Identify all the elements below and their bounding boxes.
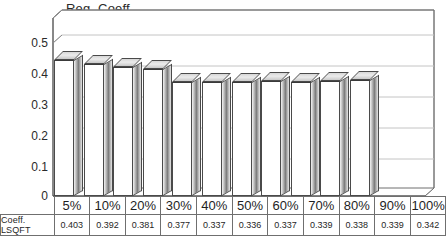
- bar-70%: [261, 81, 281, 196]
- bar-series: [53, 18, 382, 196]
- bar-20%: [113, 67, 133, 196]
- bar-side-face: [340, 76, 349, 196]
- bar-front-face: [232, 82, 252, 196]
- table-corner-cell: [1, 197, 55, 215]
- category-cell-30%: 30%: [161, 197, 197, 215]
- bar-front-face: [320, 81, 340, 196]
- bar-front-face: [113, 67, 133, 196]
- category-cell-20%: 20%: [125, 197, 161, 215]
- bar-front-face: [350, 80, 370, 196]
- category-cell-40%: 40%: [197, 197, 233, 215]
- bar-side-face: [192, 77, 201, 196]
- chart-caption: [0, 231, 435, 238]
- category-cell-60%: 60%: [268, 197, 304, 215]
- y-tick-0.2: 0.2: [14, 129, 48, 143]
- y-tick-0.5: 0.5: [14, 36, 48, 50]
- category-cell-70%: 70%: [303, 197, 339, 215]
- bar-front-face: [54, 60, 74, 196]
- table-row-categories: 5%10%20%30%40%50%60%70%80%90%100%: [1, 197, 446, 215]
- bar-side-face: [370, 75, 379, 196]
- plot-area: [53, 18, 382, 196]
- bar-80%: [291, 82, 311, 196]
- bar-side-face: [281, 76, 290, 196]
- category-cell-50%: 50%: [232, 197, 268, 215]
- bar-side-face: [133, 62, 142, 196]
- category-cell-5%: 5%: [54, 197, 90, 215]
- bar-50%: [202, 82, 222, 196]
- bar-side-face: [74, 55, 83, 196]
- category-cell-10%: 10%: [90, 197, 126, 215]
- y-tick-0.1: 0.1: [14, 160, 48, 174]
- bar-40%: [172, 82, 192, 196]
- bar-front-face: [291, 82, 311, 196]
- category-cell-80%: 80%: [339, 197, 375, 215]
- category-cell-100%: 100%: [410, 197, 446, 215]
- bar-side-face: [222, 77, 231, 196]
- bar-60%: [232, 82, 252, 196]
- bar-front-face: [261, 81, 281, 196]
- bar-side-face: [311, 77, 320, 196]
- bar-10%: [84, 64, 104, 196]
- bar-front-face: [84, 64, 104, 196]
- bar-5%: [54, 60, 74, 196]
- y-tick-0.4: 0.4: [14, 67, 48, 81]
- y-axis-title: Reg. Coeff.: [66, 1, 134, 16]
- bar-90%: [320, 81, 340, 196]
- bar-front-face: [172, 82, 192, 196]
- bar-front-face: [143, 69, 163, 196]
- bar-100%: [350, 80, 370, 196]
- category-cell-90%: 90%: [375, 197, 411, 215]
- bar-30%: [143, 69, 163, 196]
- data-table: 5%10%20%30%40%50%60%70%80%90%100% Coeff.…: [0, 196, 434, 236]
- bar-side-face: [104, 58, 113, 196]
- bar-side-face: [252, 77, 261, 196]
- y-tick-0.3: 0.3: [14, 98, 48, 112]
- bar-side-face: [163, 63, 172, 196]
- bar-front-face: [202, 82, 222, 196]
